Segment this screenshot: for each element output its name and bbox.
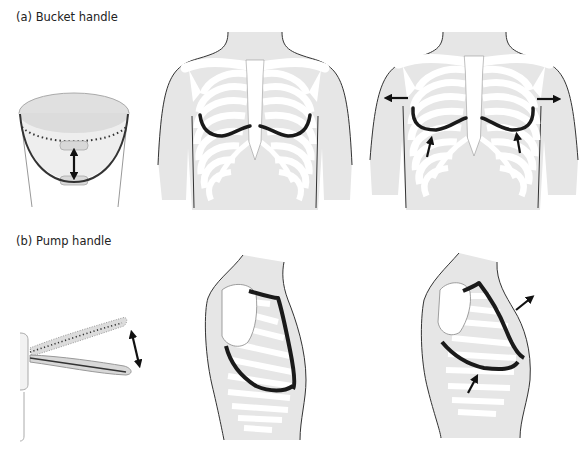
bucket-model bbox=[19, 93, 129, 207]
lateral-chest-inspiration bbox=[421, 253, 531, 438]
arrow-anterior-up bbox=[516, 298, 531, 310]
anterior-chest-rest bbox=[158, 32, 352, 210]
pump-handle-model bbox=[20, 318, 139, 441]
lateral-chest-rest bbox=[205, 255, 306, 440]
diagram-canvas bbox=[0, 0, 587, 458]
anterior-chest-inspiration bbox=[370, 32, 578, 210]
